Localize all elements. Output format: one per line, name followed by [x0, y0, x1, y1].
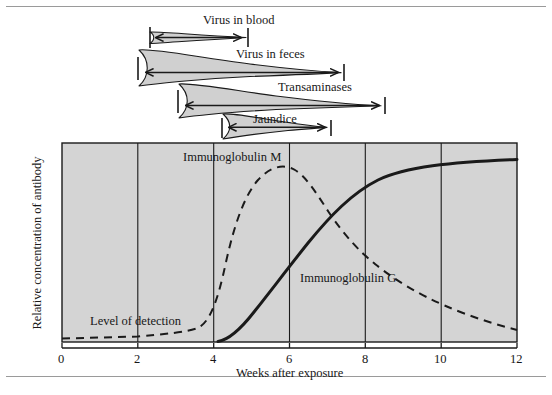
marker-label-transaminases: Transaminases: [278, 81, 352, 94]
phase-marker-virus-in-blood: [150, 27, 248, 48]
hepatitis-serology-figure: Virus in blood Virus in feces Transamina…: [0, 0, 552, 395]
x-tick-label-6: 6: [286, 353, 292, 366]
x-tick-label-12: 12: [510, 353, 523, 366]
x-tick-label-2: 2: [134, 353, 140, 366]
immunoglobulin-g-label: Immunoglobulin G: [300, 272, 396, 285]
y-axis-title-text: Relative concentration of antibody: [30, 156, 46, 329]
level-of-detection-label: Level of detection: [90, 315, 181, 328]
x-tick-label-10: 10: [434, 353, 447, 366]
immunoglobulin-m-label: Immunoglobulin M: [183, 151, 281, 164]
x-tick-label-8: 8: [362, 353, 368, 366]
y-axis-title: Relative concentration of antibody: [18, 143, 58, 343]
marker-label-virus-in-blood: Virus in blood: [203, 14, 274, 27]
x-axis-ticks: [62, 343, 517, 348]
x-axis-title: Weeks after exposure: [236, 367, 343, 380]
x-tick-label-4: 4: [210, 353, 216, 366]
marker-label-jaundice: Jaundice: [253, 113, 297, 126]
marker-label-virus-in-feces: Virus in feces: [236, 48, 305, 61]
x-tick-label-0: 0: [58, 353, 64, 366]
